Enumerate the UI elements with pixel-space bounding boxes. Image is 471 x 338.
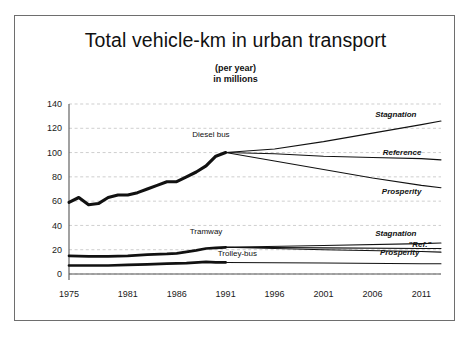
x-axis-tick-label: 1996 [265,289,285,299]
y-axis-tick-label: 40 [52,221,62,231]
x-axis-tick-label: 2001 [314,289,334,299]
x-axis-tick-label: 2011 [412,289,431,299]
scenario-label: Prosperity [380,248,420,257]
x-axis-tick-label: 1986 [167,289,187,299]
x-axis-tick-label: 1991 [216,289,236,299]
series-label: Diesel bus [192,130,229,139]
x-axis-tick-label: 1981 [118,289,138,299]
y-axis-tick-labels: 020406080100120140 [47,99,62,279]
y-axis-tick-label: 140 [47,99,62,109]
y-axis-tick-label: 100 [47,148,62,158]
y-axis-tick-label: 60 [52,196,62,206]
series-label: Trolley-bus [218,249,257,258]
chart-plot: 020406080100120140 197519811986199119962… [15,16,456,322]
x-axis-tick-labels: 19751981198619911996200120062011 [59,289,431,299]
series-line [69,262,226,266]
series-line [69,153,226,205]
y-axis-tick-label: 0 [57,269,62,279]
scenario-label: Stagnation [375,229,416,238]
series-inline-labels: Diesel busTramwayTrolley-bus [190,130,257,259]
scenario-label: Prosperity [382,187,422,196]
series-line [226,262,441,263]
y-axis-tick-label: 20 [52,245,62,255]
x-axis-tick-label: 1975 [59,289,79,299]
series-label: Tramway [190,227,223,236]
series-line [69,247,226,256]
scenario-labels: StagnationReferenceProsperityStagnation"… [375,110,431,257]
scenario-label: Reference [383,148,422,157]
y-axis-tick-label: 120 [47,123,62,133]
x-axis-tick-label: 2006 [362,289,382,299]
chart-frame: Total vehicle-km in urban transport (per… [14,15,455,321]
y-axis-tick-label: 80 [52,172,62,182]
scenario-label: Stagnation [375,110,416,119]
